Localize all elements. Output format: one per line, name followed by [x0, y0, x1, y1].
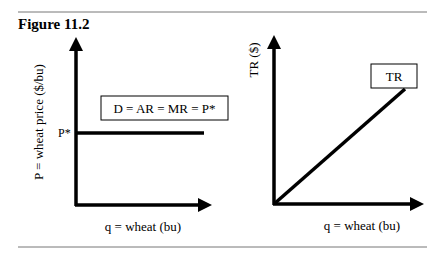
figure-canvas: Figure 11.2 P = wheat price ($/bu) q = w…	[0, 0, 444, 259]
p-star-tick-label: P*	[58, 126, 71, 140]
right-chart: TR ($) q = wheat (bu) TR	[246, 42, 417, 233]
right-x-axis-label: q = wheat (bu)	[324, 218, 400, 233]
tr-line	[274, 89, 405, 204]
tr-label: TR	[386, 69, 403, 84]
demand-label: D = AR = MR = P*	[113, 101, 215, 116]
left-y-axis-label: P = wheat price ($/bu)	[31, 64, 46, 180]
right-y-axis-label: TR ($)	[246, 42, 261, 77]
left-x-axis-label: q = wheat (bu)	[105, 219, 181, 234]
left-chart: P = wheat price ($/bu) q = wheat (bu) P*…	[31, 44, 228, 234]
figure-title: Figure 11.2	[18, 16, 89, 32]
